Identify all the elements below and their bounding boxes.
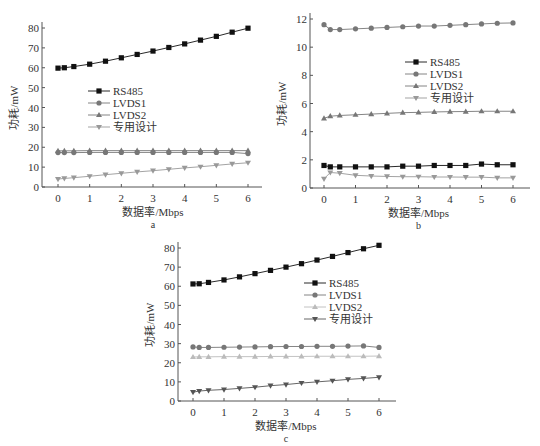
triangle-up-marker-icon: [314, 353, 320, 358]
circle-marker-icon: [268, 344, 273, 349]
triangle-up-marker-icon: [479, 108, 485, 113]
square-marker-icon: [198, 38, 203, 43]
square-marker-icon: [71, 64, 76, 69]
square-marker-icon: [361, 246, 366, 251]
square-marker-icon: [384, 164, 389, 169]
circle-marker-icon: [190, 344, 195, 349]
triangle-down-marker-icon: [384, 174, 390, 179]
y-tick-label: 6: [302, 98, 308, 110]
triangle-up-marker-icon: [494, 108, 500, 113]
legend-item-lvds2: LVDS2: [405, 80, 463, 92]
x-tick-label: 5: [214, 192, 220, 204]
triangle-up-marker-icon: [345, 353, 351, 358]
y-tick-label: 40: [164, 319, 176, 331]
x-axis-label: 数据率/Mbps: [122, 205, 183, 218]
square-marker-icon: [330, 254, 335, 259]
series-lvds1: [321, 20, 515, 32]
legend-item-lvds2: LVDS2: [88, 109, 146, 121]
square-marker-icon: [237, 274, 242, 279]
y-tick-label: 10: [296, 41, 308, 53]
triangle-down-marker-icon: [463, 175, 469, 180]
circle-legend-icon: [413, 71, 418, 76]
circle-marker-icon: [369, 26, 374, 31]
triangle-up-marker-icon: [213, 148, 219, 153]
x-tick-label: 5: [479, 193, 485, 205]
chart-caption: b: [416, 220, 421, 231]
square-marker-icon: [345, 250, 350, 255]
circle-marker-icon: [479, 21, 484, 26]
circle-marker-icon: [321, 22, 326, 27]
x-tick-label: 0: [55, 192, 61, 204]
x-tick-label: 4: [182, 192, 188, 204]
triangle-up-marker-icon: [268, 353, 274, 358]
legend: RS485LVDS1LVDS2专用设计: [304, 277, 373, 325]
square-marker-icon: [119, 55, 124, 60]
circle-marker-icon: [345, 344, 350, 349]
square-marker-icon: [400, 164, 405, 169]
circle-marker-icon: [432, 23, 437, 28]
circle-marker-icon: [206, 345, 211, 350]
y-tick-label: 50: [28, 82, 40, 94]
y-tick-label: 0: [170, 395, 176, 407]
triangle-down-marker-icon: [55, 177, 61, 182]
square-marker-icon: [314, 257, 319, 262]
square-marker-icon: [221, 277, 226, 282]
triangle-up-marker-icon: [182, 148, 188, 153]
square-marker-icon: [245, 26, 250, 31]
triangle-up-marker-icon: [198, 148, 204, 153]
square-marker-icon: [166, 45, 171, 50]
square-marker-icon: [463, 163, 468, 168]
legend-item-lvds1: LVDS1: [405, 68, 463, 80]
square-marker-icon: [206, 280, 211, 285]
circle-marker-icon: [384, 25, 389, 30]
square-marker-icon: [283, 265, 288, 270]
circle-marker-icon: [328, 27, 333, 32]
triangle-down-marker-icon: [416, 175, 422, 180]
legend-label: LVDS1: [113, 97, 146, 109]
square-marker-icon: [447, 163, 452, 168]
square-marker-icon: [376, 243, 381, 248]
y-tick-label: 8: [302, 69, 308, 81]
circle-marker-icon: [252, 344, 257, 349]
x-tick-label: 0: [190, 406, 196, 418]
circle-legend-icon: [312, 292, 317, 297]
y-tick-label: 10: [28, 161, 40, 173]
legend: RS485LVDS1LVDS2专用设计: [405, 56, 474, 104]
x-tick-label: 2: [252, 406, 258, 418]
legend-item-rs485: RS485: [405, 56, 460, 68]
square-marker-icon: [55, 66, 60, 71]
square-legend-icon: [413, 59, 418, 64]
series-dedicated-design: [190, 375, 382, 395]
square-marker-icon: [416, 164, 421, 169]
y-tick-label: 12: [296, 13, 307, 25]
x-tick-label: 6: [376, 406, 382, 418]
triangle-up-legend-icon: [96, 112, 102, 117]
y-tick-label: 70: [164, 261, 176, 273]
triangle-up-marker-icon: [150, 148, 156, 153]
legend: RS485LVDS1LVDS2专用设计: [88, 85, 157, 133]
x-tick-label: 2: [119, 192, 125, 204]
triangle-down-marker-icon: [190, 390, 196, 395]
square-legend-icon: [96, 88, 101, 93]
triangle-up-marker-icon: [118, 148, 124, 153]
triangle-up-marker-icon: [134, 148, 140, 153]
triangle-up-marker-icon: [510, 108, 516, 113]
circle-marker-icon: [361, 343, 366, 348]
triangle-up-marker-icon: [229, 148, 235, 153]
triangle-down-legend-icon: [413, 96, 419, 101]
y-tick-label: 60: [28, 62, 40, 74]
legend-item-dedicated-design: 专用设计: [405, 91, 474, 104]
chart-a: 010203040506070800123456数据率/Mbpsa功耗/mWRS…: [8, 22, 262, 230]
square-marker-icon: [103, 59, 108, 64]
circle-marker-icon: [221, 345, 226, 350]
square-legend-icon: [312, 280, 317, 285]
x-tick-label: 5: [345, 406, 351, 418]
legend-label: LVDS2: [430, 80, 463, 92]
x-tick-label: 4: [447, 193, 453, 205]
y-tick-label: 30: [28, 121, 40, 133]
triangle-up-marker-icon: [361, 353, 367, 358]
triangle-up-marker-icon: [431, 109, 437, 114]
triangle-up-legend-icon: [312, 304, 318, 309]
legend-label: 专用设计: [329, 312, 373, 325]
y-tick-label: 40: [28, 102, 40, 114]
